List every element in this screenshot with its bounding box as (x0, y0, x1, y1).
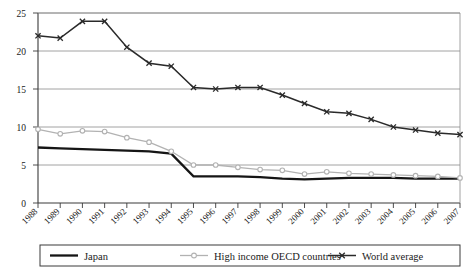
x-tick-label-1996: 1996 (197, 206, 217, 226)
x-tick-label-1995: 1995 (175, 206, 195, 226)
y-tick-label-5: 5 (21, 161, 26, 171)
legend-item-high-income-oecd-countries[interactable]: High income OECD countries (180, 251, 341, 262)
y-axis-tick-marks (33, 13, 38, 203)
y-tick-label-10: 10 (17, 123, 27, 133)
legend-label: High income OECD countries (214, 251, 341, 262)
data-point (36, 127, 41, 132)
x-tick-label-2001: 2001 (308, 206, 328, 226)
series-line (38, 21, 460, 134)
series-high-income-oecd-countries (36, 127, 463, 180)
y-axis-tick-labels: 0510152025 (17, 9, 27, 209)
x-tick-label-1989: 1989 (42, 206, 62, 226)
data-point (125, 135, 130, 140)
y-tick-label-25: 25 (17, 9, 27, 19)
legend-label: World average (362, 251, 424, 262)
data-series-layer (35, 19, 462, 180)
x-tick-label-2004: 2004 (375, 206, 395, 226)
x-tick-label-1999: 1999 (264, 206, 284, 226)
x-tick-label-2000: 2000 (286, 206, 306, 226)
series-line (38, 129, 460, 178)
x-axis-tick-labels: 1988198919901991199219931994199519961997… (20, 206, 462, 226)
x-tick-label-1991: 1991 (86, 206, 106, 226)
data-point (435, 174, 440, 179)
x-tick-label-1992: 1992 (108, 206, 128, 226)
data-point (391, 173, 396, 178)
data-point (458, 176, 463, 181)
data-point (102, 129, 107, 134)
x-tick-label-1990: 1990 (64, 206, 84, 226)
y-tick-label-20: 20 (17, 47, 27, 57)
data-point (80, 129, 85, 134)
y-tick-label-0: 0 (21, 199, 26, 209)
x-tick-label-1994: 1994 (153, 206, 173, 226)
x-tick-label-2002: 2002 (331, 206, 351, 226)
data-point (213, 163, 218, 168)
data-point (58, 132, 63, 137)
x-tick-label-2006: 2006 (419, 206, 439, 226)
series-world-average (35, 19, 462, 137)
data-point (347, 171, 352, 176)
x-tick-label-1998: 1998 (242, 206, 262, 226)
x-tick-label-1988: 1988 (20, 206, 40, 226)
y-tick-label-15: 15 (17, 85, 27, 95)
data-point (236, 165, 241, 170)
data-point (191, 163, 196, 168)
x-tick-label-2007: 2007 (442, 206, 462, 226)
data-point (413, 173, 418, 178)
x-tick-label-2003: 2003 (353, 206, 373, 226)
data-point (324, 170, 329, 175)
data-point (280, 168, 285, 173)
data-point (369, 172, 374, 177)
chart-legend: JapanHigh income OECD countriesWorld ave… (40, 245, 460, 266)
line-chart: 0510152025 19881989199019911992199319941… (0, 0, 467, 270)
x-tick-label-1997: 1997 (220, 206, 240, 226)
data-point (169, 149, 174, 154)
legend-label: Japan (84, 251, 109, 262)
data-point (147, 140, 152, 145)
grid-lines (38, 13, 460, 165)
x-tick-label-1993: 1993 (131, 206, 151, 226)
data-point (302, 172, 307, 177)
chart-canvas: 0510152025 19881989199019911992199319941… (0, 0, 467, 270)
legend-item-world-average[interactable]: World average (328, 251, 424, 262)
x-axis-tick-marks (38, 203, 460, 208)
data-point (258, 167, 263, 172)
x-tick-label-2005: 2005 (397, 206, 417, 226)
legend-marker-circle-icon (192, 253, 197, 258)
legend-item-japan[interactable]: Japan (50, 251, 109, 262)
